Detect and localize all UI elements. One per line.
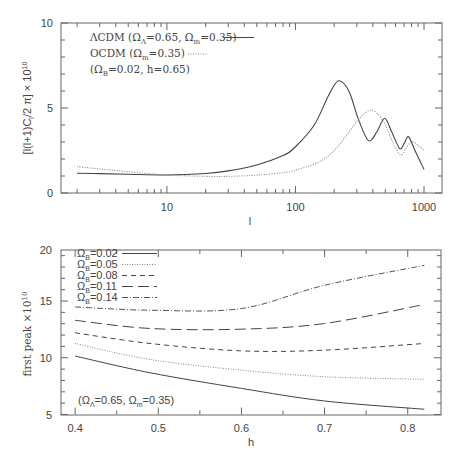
top-y-tick-label: 10 bbox=[41, 17, 53, 29]
bottom-x-tick-label: 0.5 bbox=[151, 422, 166, 434]
top-y-tick-label: 5 bbox=[47, 102, 53, 114]
chart-canvas: 1010010000510 ΛCDM (ΩΛ=0.65, Ωm=0.35) OC… bbox=[0, 0, 459, 461]
top-x-tick-label: 10 bbox=[161, 201, 173, 213]
series-line bbox=[75, 304, 424, 329]
top-x-tick-label: 100 bbox=[286, 201, 304, 213]
figure: 1010010000510 ΛCDM (ΩΛ=0.65, Ωm=0.35) OC… bbox=[0, 0, 459, 461]
top-annotation: (ΩB=0.02, h=0.65) bbox=[90, 63, 190, 78]
series-line bbox=[77, 81, 424, 175]
bottom-y-tick-label: 20 bbox=[40, 244, 52, 256]
series-line bbox=[75, 343, 424, 379]
top-y-axis-label: [l(l+1)Cl/2 π] × 1010 bbox=[21, 62, 35, 155]
bottom-x-axis-label: h bbox=[248, 436, 254, 448]
top-x-axis-label: l bbox=[249, 215, 251, 227]
bottom-y-tick-label: 5 bbox=[46, 409, 52, 421]
bottom-x-tick-label: 0.8 bbox=[400, 422, 415, 434]
top-legend: ΛCDM (ΩΛ=0.65, Ωm=0.35) OCDM (Ωm=0.35) (… bbox=[89, 31, 254, 78]
bottom-x-tick-label: 0.7 bbox=[317, 422, 332, 434]
bottom-y-tick-label: 10 bbox=[40, 352, 52, 364]
top-series bbox=[77, 81, 424, 177]
bottom-x-tick-label: 0.6 bbox=[234, 422, 249, 434]
bottom-annotation: (ΩΛ=0.65, Ωm=0.35) bbox=[78, 394, 174, 408]
top-x-tick-label: 1000 bbox=[412, 201, 436, 213]
top-y-tick-label: 0 bbox=[47, 187, 53, 199]
legend-omegab-014-label: ΩB=0.14 bbox=[77, 291, 118, 305]
series-line bbox=[75, 333, 424, 352]
bottom-x-tick-label: 0.4 bbox=[67, 422, 82, 434]
bottom-legend: ΩB=0.02 ΩB=0.05 ΩB=0.08 ΩB=0.11 ΩB=0.14 bbox=[77, 247, 157, 305]
legend-ocdm-label: OCDM (Ωm=0.35) bbox=[90, 47, 185, 62]
bottom-y-axis-label: first peak ×1010 bbox=[21, 292, 33, 377]
series-line bbox=[75, 265, 424, 311]
bottom-y-tick-label: 15 bbox=[40, 295, 52, 307]
bottom-panel: 0.40.50.60.70.85101520 ΩB=0.02 ΩB=0.05 Ω… bbox=[21, 244, 441, 448]
top-panel: 1010010000510 ΛCDM (ΩΛ=0.65, Ωm=0.35) OC… bbox=[21, 17, 442, 227]
legend-lcdm-label: ΛCDM (ΩΛ=0.65, Ωm=0.35) bbox=[89, 31, 236, 46]
